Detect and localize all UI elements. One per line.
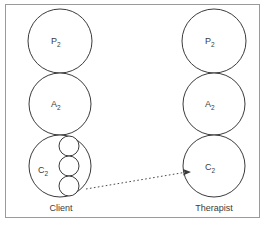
client-child-inner-circle-3 [59,176,79,196]
therapist-column-label: Therapist [195,203,233,213]
client-column-label: Client [49,203,73,213]
therapist-column: P2 A2 C2 Therapist [182,9,246,213]
diagram-canvas: P2 A2 C2 Client P2 A2 [0,0,267,226]
client-child-inner-circle-1 [59,136,79,156]
therapist-child-circle [183,135,245,197]
transaction-arrow-line [86,173,184,190]
client-child-inner-circle-2 [59,156,79,176]
transaction-arrow [86,169,191,189]
client-column: P2 A2 C2 Client [28,9,92,213]
diagram-svg: P2 A2 C2 Client P2 A2 [0,0,267,226]
